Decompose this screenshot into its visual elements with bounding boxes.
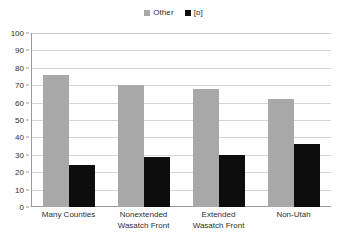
bar-group xyxy=(256,33,331,207)
legend-label-o: [ɒ] xyxy=(194,9,203,17)
y-axis-tick-label: 100 xyxy=(11,29,24,38)
legend-label-other: Other xyxy=(153,9,174,17)
x-axis-labels: Many CountiesNonextended Wasatch FrontEx… xyxy=(31,210,331,231)
bar-o xyxy=(144,157,170,207)
y-axis-tick-label: 10 xyxy=(15,185,24,194)
x-axis-tick-label: Nonextended Wasatch Front xyxy=(106,210,181,231)
y-axis-tick-mark xyxy=(26,50,29,51)
y-axis-tick-label: 50 xyxy=(15,116,24,125)
bar-group xyxy=(181,33,256,207)
legend-swatch-icon xyxy=(185,10,191,16)
x-axis-tick-label: Extended Wasatch Front xyxy=(181,210,256,231)
y-axis: 1009080706050403020100 xyxy=(0,33,29,207)
y-axis-tick-mark xyxy=(26,154,29,155)
bar-o xyxy=(294,144,320,207)
y-axis-tick-label: 30 xyxy=(15,150,24,159)
bar-group xyxy=(31,33,106,207)
y-axis-tick-mark xyxy=(26,85,29,86)
y-axis-tick-label: 0 xyxy=(20,203,24,212)
y-axis-tick-label: 60 xyxy=(15,98,24,107)
bar-other xyxy=(118,85,144,207)
y-axis-tick-mark xyxy=(26,137,29,138)
y-axis-tick-label: 70 xyxy=(15,81,24,90)
bar-other xyxy=(268,99,294,207)
bar-other xyxy=(193,89,219,207)
y-axis-tick-label: 40 xyxy=(15,133,24,142)
y-axis-tick-label: 80 xyxy=(15,63,24,72)
y-axis-tick-label: 90 xyxy=(15,46,24,55)
y-axis-tick-mark xyxy=(26,207,29,208)
legend-entry-other: Other xyxy=(144,9,174,17)
y-axis-tick-mark xyxy=(26,102,29,103)
legend-entry-o: [ɒ] xyxy=(185,9,203,17)
y-axis-tick-mark xyxy=(26,189,29,190)
y-axis-tick-mark xyxy=(26,67,29,68)
x-axis-tick-label: Non-Utah xyxy=(256,210,331,231)
bars-layer xyxy=(31,33,331,207)
y-axis-tick-mark xyxy=(26,33,29,34)
chart-legend: Other [ɒ] xyxy=(0,7,347,19)
x-axis-tick-label: Many Counties xyxy=(31,210,106,231)
bar-o xyxy=(219,155,245,207)
y-axis-tick-label: 20 xyxy=(15,168,24,177)
y-axis-tick-mark xyxy=(26,120,29,121)
bar-other xyxy=(43,75,69,207)
y-axis-tick-mark xyxy=(26,172,29,173)
bar-chart: Other [ɒ] 1009080706050403020100 Many Co… xyxy=(0,0,347,243)
bar-o xyxy=(69,165,95,207)
legend-swatch-icon xyxy=(144,10,150,16)
bar-group xyxy=(106,33,181,207)
